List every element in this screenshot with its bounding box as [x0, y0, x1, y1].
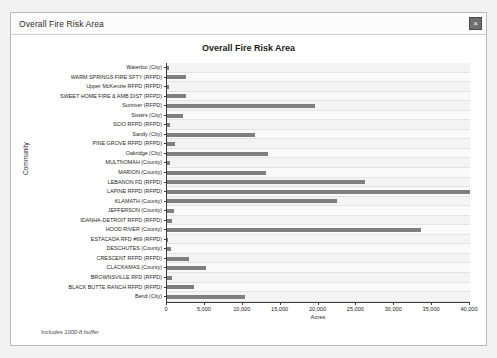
chart-row [167, 139, 470, 149]
chart-title: Overall Fire Risk Area [11, 43, 486, 53]
category-label: Sisters (City) [31, 111, 165, 121]
x-axis-tick [431, 302, 432, 305]
chart-body: Overall Fire Risk Area Community Waterlo… [11, 35, 486, 345]
chart-row [167, 82, 470, 92]
bar[interactable] [167, 133, 255, 137]
category-label: Sunriver (RFPD) [31, 101, 165, 111]
bar[interactable] [167, 94, 186, 98]
category-label: MULTNOMAH (County) [31, 158, 165, 168]
bar[interactable] [167, 238, 168, 242]
category-label: LEBANON FD (RFPD) [31, 178, 165, 188]
chart-row [167, 120, 470, 130]
category-label: MARION (County) [31, 168, 165, 178]
x-axis-tick [469, 302, 470, 305]
x-axis-tick-label: 40,000 [460, 306, 477, 312]
category-label: Bend (City) [31, 292, 165, 302]
category-label: SCIO RFPD (RFPD) [31, 120, 165, 130]
category-label: Sandy (City) [31, 130, 165, 140]
category-label: IDANHA-DETROIT RFPD (RFPD) [31, 216, 165, 226]
category-label: CLACKAMAS (County) [31, 263, 165, 273]
category-label: Oakridge (City) [31, 149, 165, 159]
category-label: LAPINE RFPD (RFPD) [31, 187, 165, 197]
bar[interactable] [167, 114, 183, 118]
category-label: Upper McKenzie RFPD (RFPD) [31, 82, 165, 92]
x-axis-tick [318, 302, 319, 305]
plot-area [166, 63, 470, 302]
category-label: SWEET HOME FIRE & AMB DIST (RFPD) [31, 92, 165, 102]
x-axis-tick-label: 0 [164, 306, 167, 312]
bar[interactable] [167, 219, 172, 223]
chart-row [167, 244, 470, 254]
chart-row [167, 73, 470, 83]
category-label: CRESCENT RFPD (RFPD) [31, 254, 165, 264]
bar[interactable] [167, 247, 171, 251]
chart-row [167, 273, 470, 283]
x-axis-tick-label: 10,000 [233, 306, 250, 312]
x-axis-tick [242, 302, 243, 305]
x-axis-tick [280, 302, 281, 305]
x-axis-tick [355, 302, 356, 305]
chart-row [167, 63, 470, 73]
x-axis-title: Acres [166, 314, 470, 320]
category-label: WARM SPRINGS FIRE SFTY (RFPD) [31, 73, 165, 83]
close-icon[interactable]: × [469, 17, 482, 30]
category-label: JEFFERSON (County) [31, 206, 165, 216]
category-axis-labels: Waterloo (City)WARM SPRINGS FIRE SFTY (R… [31, 63, 165, 302]
window-title: Overall Fire Risk Area [19, 19, 469, 29]
chart-row [167, 178, 470, 188]
chart-footnote: Includes 1000-ft buffer [41, 329, 99, 335]
chart-row [167, 254, 470, 264]
bar[interactable] [167, 228, 421, 232]
x-axis-tick [204, 302, 205, 305]
x-axis-tick-label: 15,000 [271, 306, 288, 312]
bar[interactable] [167, 66, 169, 70]
y-axis-title: Community [22, 142, 29, 175]
chart-row [167, 101, 470, 111]
bar[interactable] [167, 295, 245, 299]
chart-row [167, 283, 470, 293]
bar[interactable] [167, 123, 170, 127]
bar[interactable] [167, 285, 194, 289]
bar[interactable] [167, 276, 172, 280]
chart-row [167, 292, 470, 302]
window-title-bar: Overall Fire Risk Area × [11, 13, 486, 35]
bar[interactable] [167, 266, 206, 270]
chart-row [167, 206, 470, 216]
chart-row [167, 168, 470, 178]
bar[interactable] [167, 142, 175, 146]
bar[interactable] [167, 199, 337, 203]
category-label: Waterloo (City) [31, 63, 165, 73]
bar[interactable] [167, 209, 174, 213]
chart-row [167, 263, 470, 273]
x-axis-tick-label: 25,000 [347, 306, 364, 312]
bar[interactable] [167, 190, 470, 194]
bar[interactable] [167, 171, 266, 175]
chart-row [167, 225, 470, 235]
bar[interactable] [167, 152, 268, 156]
category-label: KLAMATH (County) [31, 197, 165, 207]
category-label: PINE GROVE RFPD (RFPD) [31, 139, 165, 149]
x-axis-tick [393, 302, 394, 305]
x-axis-tick-label: 5,000 [197, 306, 211, 312]
chart-row [167, 197, 470, 207]
bar[interactable] [167, 75, 186, 79]
bar[interactable] [167, 257, 189, 261]
category-label: BLACK BUTTE RANCH RFPD (RFPD) [31, 283, 165, 293]
bar[interactable] [167, 104, 315, 108]
x-axis-tick-label: 30,000 [385, 306, 402, 312]
chart-row [167, 216, 470, 226]
bar[interactable] [167, 161, 170, 165]
plot-wrapper: Community Waterloo (City)WARM SPRINGS FI… [11, 57, 480, 345]
x-axis-tick [166, 302, 167, 305]
category-label: ESTACADA RFD #69 (RFPD) [31, 235, 165, 245]
bar[interactable] [167, 180, 365, 184]
chart-window: Overall Fire Risk Area × Overall Fire Ri… [10, 12, 487, 346]
category-label: BROWNSVILLE RFD (RFPD) [31, 273, 165, 283]
category-label: HOOD RIVER (County) [31, 225, 165, 235]
x-axis-tick-label: 20,000 [309, 306, 326, 312]
bar[interactable] [167, 85, 169, 89]
chart-row [167, 235, 470, 245]
chart-row [167, 158, 470, 168]
chart-row [167, 130, 470, 140]
chart-row [167, 149, 470, 159]
